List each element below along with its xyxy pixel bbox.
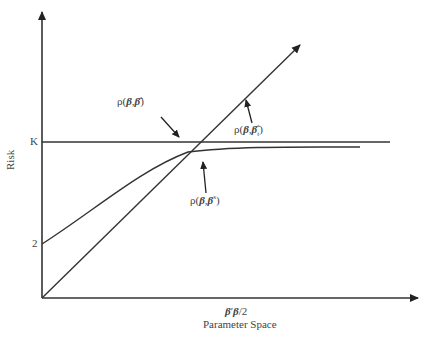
y-tick-2: 2: [32, 237, 38, 249]
arrow-rho-hat-t: [246, 100, 252, 123]
risk-diagram: [0, 0, 434, 337]
arrow-rho-s: [203, 162, 206, 193]
label-rho-s: ρ(β,βs): [190, 193, 220, 206]
y-tick-k: K: [30, 135, 38, 147]
x-axis-label: Parameter Space: [203, 318, 277, 330]
arrow-rho-hat: [161, 117, 179, 137]
label-rho-hat-t: ρ(β,β̂t): [234, 123, 263, 138]
x-marker-label: β′β/2: [225, 305, 247, 317]
y-axis-label: Risk: [4, 150, 16, 170]
label-rho-hat: ρ(β,β̂): [117, 95, 144, 107]
pretest-risk-line: [42, 45, 300, 298]
